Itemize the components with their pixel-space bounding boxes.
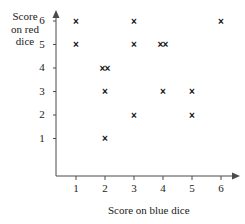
data-point: × [217, 17, 226, 26]
data-point: × [130, 111, 139, 120]
y-tick-label: 6 [35, 14, 49, 26]
data-point: × [101, 134, 110, 143]
x-tick-label: 4 [156, 182, 170, 194]
y-tick-label: 3 [35, 85, 49, 97]
data-point: × [72, 17, 81, 26]
y-tick-label: 1 [35, 132, 49, 144]
y-tick-label: 2 [35, 108, 49, 120]
x-tick-label: 5 [185, 182, 199, 194]
data-point: × [103, 64, 112, 73]
data-point: × [159, 87, 168, 96]
x-tick-label: 1 [69, 182, 83, 194]
scatter-plot: Score on red dice 123456123456 ×××××××××… [0, 0, 245, 224]
data-point: × [188, 111, 197, 120]
data-point: × [188, 87, 197, 96]
data-point: × [130, 40, 139, 49]
x-tick-label: 3 [127, 182, 141, 194]
data-point: × [130, 17, 139, 26]
data-point: × [161, 40, 170, 49]
data-point: × [72, 40, 81, 49]
y-tick-label: 5 [35, 38, 49, 50]
x-tick-label: 6 [214, 182, 228, 194]
plot-area: 123456123456 ××××××××××××××× [48, 12, 240, 192]
y-tick-label: 4 [35, 61, 49, 73]
x-tick-label: 2 [98, 182, 112, 194]
x-axis-title: Score on blue dice [108, 204, 190, 216]
data-point: × [101, 87, 110, 96]
